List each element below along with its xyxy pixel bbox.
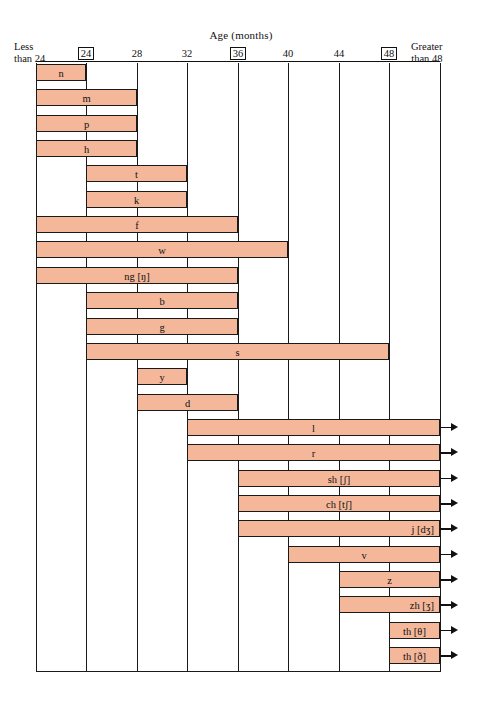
bar-row: k [36,191,440,208]
bar-row: s [36,343,440,360]
bar-label: r [188,445,439,462]
bar-label: n [37,65,85,82]
bar-label: p [37,116,136,133]
continues-arrow-icon [440,596,460,613]
axis-tick-44: 44 [319,48,359,59]
axis-tick-label-text: 24 [78,47,95,60]
bar-8[interactable]: w [36,241,288,258]
axis-tick-28: 28 [117,48,157,59]
plot-bottom-border [36,671,440,672]
bar-11[interactable]: g [86,318,238,335]
axis-tick-48: 48 [369,47,409,60]
bar-row: sh [ʃ] [36,470,440,487]
bar-row: y [36,368,440,385]
bar-label: zh [ʒ] [410,597,434,614]
bar-2[interactable]: m [36,89,137,106]
bar-row: th [ð] [36,647,440,664]
bar-10[interactable]: b [86,292,238,309]
continues-arrow-icon [440,546,460,563]
bar-label: ng [ŋ] [37,268,237,285]
bar-label: ch [tʃ] [239,496,439,513]
chart-title: Age (months) [0,29,482,41]
bar-label: b [87,293,237,310]
axis-tick-32: 32 [167,48,207,59]
bar-label: s [87,344,388,361]
continues-arrow-icon [440,520,460,537]
continues-arrow-icon [440,647,460,664]
bar-label: l [188,420,439,437]
bar-label: v [289,547,439,564]
axis-left-edge-line1: Less [14,41,45,53]
plot-area: nmphtkfwng [ŋ]bgsydlrsh [ʃ]ch [tʃ]j [dʒ]… [36,63,440,672]
bar-3[interactable]: p [36,115,137,132]
bar-label: g [87,319,237,336]
bar-label: z [340,572,439,589]
continues-arrow-icon [440,470,460,487]
bar-5[interactable]: t [86,165,187,182]
bar-row: zh [ʒ] [36,596,440,613]
bar-23[interactable]: th [θ] [389,622,440,639]
bar-13[interactable]: y [137,368,187,385]
bar-20[interactable]: v [288,546,440,563]
bar-row: p [36,115,440,132]
axis-tick-40: 40 [268,48,308,59]
bar-6[interactable]: k [86,191,187,208]
axis-tick-label-text: 36 [230,47,247,60]
bar-19[interactable]: j [dʒ] [238,520,440,537]
bar-row: j [dʒ] [36,520,440,537]
bar-label: h [37,141,136,158]
continues-arrow-icon [440,622,460,639]
axis-right-edge-line1: Greater [411,41,442,53]
bar-label: f [37,217,237,234]
bar-row: f [36,216,440,233]
bar-label: w [37,242,287,259]
bar-label: sh [ʃ] [239,471,439,488]
bar-12[interactable]: s [86,343,389,360]
bar-label: k [87,192,186,209]
bar-18[interactable]: ch [tʃ] [238,495,440,512]
continues-arrow-icon [440,571,460,588]
bar-17[interactable]: sh [ʃ] [238,470,440,487]
bar-row: n [36,64,440,81]
axis-tick-24: 24 [66,47,106,60]
axis-tick-label-text: 44 [334,48,345,59]
bar-22[interactable]: zh [ʒ] [339,596,440,613]
bar-14[interactable]: d [137,394,238,411]
bar-1[interactable]: n [36,64,86,81]
axis-tick-label-text: 40 [283,48,294,59]
bar-row: b [36,292,440,309]
bar-4[interactable]: h [36,140,137,157]
bar-21[interactable]: z [339,571,440,588]
bar-label: m [37,90,136,107]
bar-label: th [θ] [390,623,439,640]
bar-row: ng [ŋ] [36,267,440,284]
bar-16[interactable]: r [187,444,440,461]
bar-row: w [36,241,440,258]
bar-9[interactable]: ng [ŋ] [36,267,238,284]
phoneme-acquisition-chart: Age (months) Less than 24 Greater than 4… [0,0,482,715]
bar-row: m [36,89,440,106]
continues-arrow-icon [440,495,460,512]
axis-tick-36: 36 [218,47,258,60]
bar-row: h [36,140,440,157]
continues-arrow-icon [440,444,460,461]
bar-label: y [138,369,186,386]
bar-row: ch [tʃ] [36,495,440,512]
bar-15[interactable]: l [187,419,440,436]
bar-label: t [87,166,186,183]
bar-7[interactable]: f [36,216,238,233]
bar-row: z [36,571,440,588]
bar-row: th [θ] [36,622,440,639]
bar-row: r [36,444,440,461]
bar-label: d [138,395,237,412]
continues-arrow-icon [440,419,460,436]
bar-row: g [36,318,440,335]
axis-tick-label-text: 48 [381,47,398,60]
bar-row: d [36,394,440,411]
bar-row: l [36,419,440,436]
bar-24[interactable]: th [ð] [389,647,440,664]
bar-row: t [36,165,440,182]
bar-row: v [36,546,440,563]
axis-tick-label-text: 28 [132,48,143,59]
bar-label: th [ð] [390,648,439,665]
